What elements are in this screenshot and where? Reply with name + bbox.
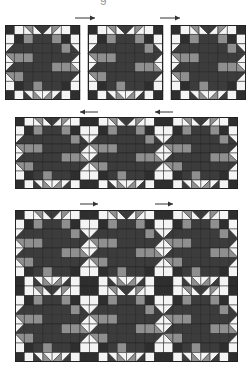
quilt-block (88, 25, 163, 100)
arrow-right-icon (75, 15, 95, 21)
section-separate-blocks (5, 25, 246, 100)
quilt-block (164, 210, 238, 286)
quilt-block (89, 286, 163, 362)
arrow-right-icon (160, 15, 180, 21)
quilt-block (171, 25, 246, 100)
quilt-block (15, 210, 89, 286)
quilt-block (15, 117, 89, 189)
quilt-block (89, 210, 163, 286)
quilt-block (164, 117, 238, 189)
quilt-block (164, 286, 238, 362)
quilt-block (5, 25, 80, 100)
section-joined-strip (15, 117, 238, 189)
arrow-right-icon (80, 201, 98, 207)
arrow-left-icon (80, 109, 98, 115)
quilt-block (89, 117, 163, 189)
quilt-block (15, 286, 89, 362)
caption-remnant: g (100, 0, 107, 5)
section-quilt-top (15, 210, 238, 362)
arrow-left-icon (155, 109, 173, 115)
arrow-right-icon (155, 201, 173, 207)
